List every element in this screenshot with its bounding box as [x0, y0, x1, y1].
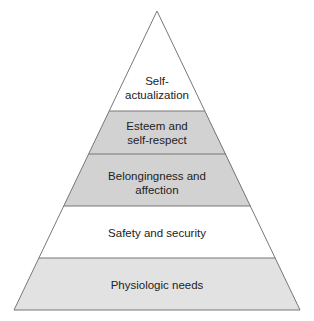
label-line: actualization — [0, 88, 314, 102]
label-safety: Safety and security — [0, 226, 314, 240]
label-physiologic: Physiologic needs — [0, 278, 314, 292]
label-self-actualization: Self- actualization — [0, 74, 314, 102]
label-line: self-respect — [0, 133, 314, 147]
label-line: Safety and security — [0, 226, 314, 240]
pyramid-diagram — [0, 0, 314, 321]
label-line: Belongingness and — [0, 169, 314, 183]
label-line: Self- — [0, 74, 314, 88]
label-belongingness: Belongingness and affection — [0, 169, 314, 197]
label-line: affection — [0, 183, 314, 197]
label-line: Esteem and — [0, 119, 314, 133]
label-esteem: Esteem and self-respect — [0, 119, 314, 147]
label-line: Physiologic needs — [0, 278, 314, 292]
